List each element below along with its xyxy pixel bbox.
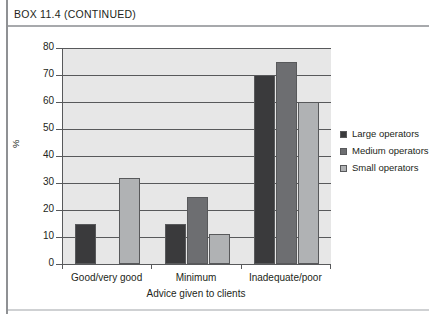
bar-0-0 bbox=[75, 224, 96, 265]
y-tick-40 bbox=[56, 156, 62, 157]
x-tick-origin bbox=[62, 264, 63, 269]
y-tick-label-50: 50 bbox=[2, 122, 54, 133]
chart-legend: Large operatorsMedium operatorsSmall ope… bbox=[340, 128, 432, 179]
footer-divider bbox=[8, 309, 429, 311]
legend-swatch-icon-2 bbox=[340, 165, 347, 172]
y-tick-70 bbox=[56, 75, 62, 76]
y-tick-50 bbox=[56, 129, 62, 130]
bars-layer bbox=[63, 48, 330, 264]
x-tick-label-1: Minimum bbox=[176, 272, 217, 283]
legend-item-1[interactable]: Medium operators bbox=[340, 145, 432, 157]
y-tick-20 bbox=[56, 210, 62, 211]
bar-chart: 01020304050607080 % Advice given to clie… bbox=[0, 0, 432, 314]
x-tick-2 bbox=[330, 264, 331, 269]
page-root: BOX 11.4 (CONTINUED) 01020304050607080 %… bbox=[0, 0, 432, 314]
y-tick-label-0: 0 bbox=[2, 257, 54, 268]
y-tick-60 bbox=[56, 102, 62, 103]
y-tick-label-20: 20 bbox=[2, 203, 54, 214]
bar-0-2 bbox=[254, 75, 275, 264]
y-tick-label-70: 70 bbox=[2, 68, 54, 79]
bar-0-1 bbox=[165, 224, 186, 265]
legend-item-2[interactable]: Small operators bbox=[340, 162, 432, 174]
legend-swatch-icon-1 bbox=[340, 148, 347, 155]
bar-2-2 bbox=[298, 102, 319, 264]
y-tick-label-10: 10 bbox=[2, 230, 54, 241]
y-tick-80 bbox=[56, 48, 62, 49]
y-axis-title: % bbox=[10, 140, 21, 148]
x-tick-0 bbox=[151, 264, 152, 269]
legend-label-2: Small operators bbox=[352, 162, 432, 174]
x-axis-line bbox=[62, 264, 331, 265]
y-tick-10 bbox=[56, 237, 62, 238]
y-tick-label-40: 40 bbox=[2, 149, 54, 160]
legend-label-0: Large operators bbox=[352, 128, 432, 140]
y-axis: 01020304050607080 bbox=[0, 0, 54, 314]
x-tick-1 bbox=[241, 264, 242, 269]
bar-2-0 bbox=[119, 178, 140, 264]
x-tick-label-2: Inadequate/poor bbox=[249, 272, 322, 283]
y-tick-label-80: 80 bbox=[2, 41, 54, 52]
y-tick-label-30: 30 bbox=[2, 176, 54, 187]
bar-1-1 bbox=[187, 197, 208, 265]
y-tick-30 bbox=[56, 183, 62, 184]
legend-swatch-icon-0 bbox=[340, 131, 347, 138]
y-tick-label-60: 60 bbox=[2, 95, 54, 106]
bar-1-2 bbox=[276, 62, 297, 265]
x-axis-title: Advice given to clients bbox=[147, 288, 246, 299]
bar-2-1 bbox=[209, 234, 230, 264]
legend-item-0[interactable]: Large operators bbox=[340, 128, 432, 140]
x-tick-label-0: Good/very good bbox=[71, 272, 142, 283]
legend-label-1: Medium operators bbox=[352, 145, 432, 157]
